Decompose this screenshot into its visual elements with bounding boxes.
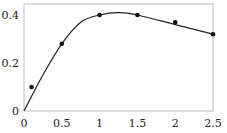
- data-point: [173, 20, 178, 25]
- x-tick-label: 1.5: [129, 117, 147, 130]
- data-point: [60, 42, 65, 47]
- y-tick-label: 0.4: [2, 9, 20, 22]
- x-axis: 00.511.522.5: [21, 117, 222, 130]
- x-tick-label: 1: [96, 117, 103, 130]
- fit-curve: [24, 13, 213, 111]
- y-axis: 00.20.4: [2, 9, 20, 118]
- data-point: [29, 85, 34, 90]
- chart: 00.20.4 00.511.522.5: [0, 0, 227, 133]
- data-point: [97, 13, 102, 18]
- y-tick-label: 0.2: [2, 57, 20, 70]
- x-tick-label: 2: [172, 117, 179, 130]
- data-point: [135, 13, 140, 18]
- x-tick-label: 0.5: [53, 117, 71, 130]
- data-point: [211, 32, 216, 37]
- y-tick-label: 0: [12, 105, 19, 118]
- x-tick-label: 2.5: [204, 117, 222, 130]
- x-tick-label: 0: [21, 117, 28, 130]
